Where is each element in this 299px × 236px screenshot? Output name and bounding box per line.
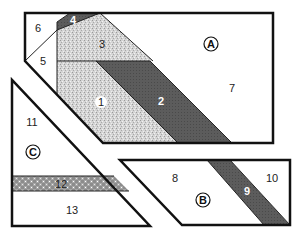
label-11: 11 (26, 116, 37, 128)
section-a: 6 5 4 3 1 2 7 A (25, 13, 273, 143)
label-2: 2 (158, 95, 164, 107)
label-7: 7 (229, 82, 235, 94)
section-c-label: C (29, 146, 37, 158)
piece-13 (12, 191, 150, 226)
label-6: 6 (35, 22, 41, 34)
label-9: 9 (244, 185, 250, 197)
label-10: 10 (266, 172, 278, 184)
label-4: 4 (70, 14, 77, 26)
quilt-diagram: 6 5 4 3 1 2 7 A 11 C 12 13 (0, 0, 299, 236)
label-1: 1 (98, 96, 104, 108)
label-13: 13 (66, 204, 78, 216)
label-8: 8 (172, 172, 178, 184)
section-b-label: B (199, 194, 207, 206)
label-12: 12 (55, 178, 67, 190)
section-b: 8 9 10 B (120, 160, 290, 225)
section-a-label: A (207, 38, 215, 50)
label-3: 3 (99, 38, 105, 50)
label-5: 5 (40, 55, 46, 67)
